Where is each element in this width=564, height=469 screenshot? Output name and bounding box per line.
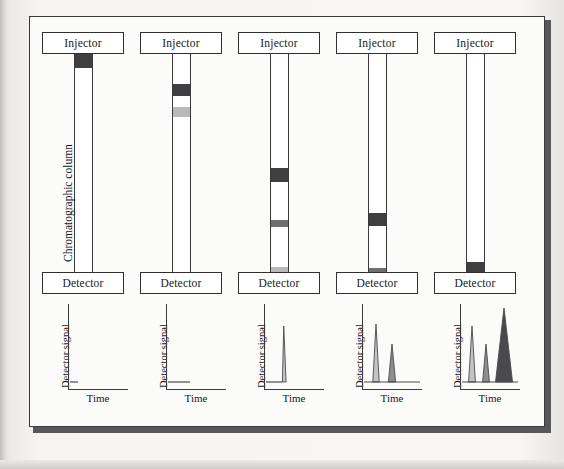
- detector-box: Detector: [238, 272, 320, 294]
- chromatogram-plot: Detector signalTime: [50, 304, 128, 404]
- chromatographic-column: [270, 54, 289, 273]
- x-axis-label: Time: [460, 392, 520, 404]
- figure-frame: InjectorChromatographic columnDetectorDe…: [29, 16, 545, 427]
- analyte-band-1: [75, 54, 92, 68]
- x-axis-label: Time: [362, 392, 422, 404]
- x-axis-label: Time: [68, 392, 128, 404]
- chromatogram-plot: Detector signalTime: [442, 304, 520, 404]
- signal-trace: [362, 304, 422, 390]
- signal-trace: [264, 304, 324, 390]
- chromatographic-column: [74, 54, 93, 273]
- chromatogram-peak-1: [373, 324, 379, 382]
- detector-box: Detector: [336, 272, 418, 294]
- separation-panel-5: InjectorDetectorDetector signalTime: [428, 17, 524, 426]
- signal-trace: [166, 304, 226, 390]
- detector-box: Detector: [434, 272, 516, 294]
- chromatographic-column: [466, 54, 485, 273]
- x-axis-label: Time: [166, 392, 226, 404]
- injector-box: Injector: [140, 32, 222, 54]
- separation-panel-3: InjectorDetectorDetector signalTime: [232, 17, 328, 426]
- panel-container: InjectorChromatographic columnDetectorDe…: [30, 17, 544, 426]
- separation-panel-4: InjectorDetectorDetector signalTime: [330, 17, 426, 426]
- signal-trace: [460, 304, 520, 390]
- analyte-band-2: [173, 107, 190, 117]
- injector-box: Injector: [238, 32, 320, 54]
- analyte-band-2: [271, 220, 288, 227]
- analyte-band-1: [173, 84, 190, 96]
- x-axis-label: Time: [264, 392, 324, 404]
- chromatographic-column: [172, 54, 191, 273]
- chromatogram-peak-2: [388, 344, 395, 382]
- injector-box: Injector: [336, 32, 418, 54]
- signal-trace: [68, 304, 128, 390]
- chromatogram-peak-1: [469, 326, 476, 382]
- chromatogram-plot: Detector signalTime: [246, 304, 324, 404]
- column-caption: Chromatographic column: [62, 92, 74, 262]
- chromatographic-column: [368, 54, 387, 273]
- analyte-band-1: [369, 213, 386, 226]
- injector-box: Injector: [42, 32, 124, 54]
- chromatogram-peak-1: [282, 326, 286, 382]
- detector-box: Detector: [42, 272, 124, 294]
- chromatogram-peak-2: [483, 344, 490, 382]
- detector-box: Detector: [140, 272, 222, 294]
- separation-panel-1: InjectorChromatographic columnDetectorDe…: [36, 17, 132, 426]
- chromatogram-plot: Detector signalTime: [148, 304, 226, 404]
- analyte-band-1: [271, 168, 288, 182]
- separation-panel-2: InjectorDetectorDetector signalTime: [134, 17, 230, 426]
- injector-box: Injector: [434, 32, 516, 54]
- chromatogram-peak-3: [496, 308, 513, 382]
- chromatogram-plot: Detector signalTime: [344, 304, 422, 404]
